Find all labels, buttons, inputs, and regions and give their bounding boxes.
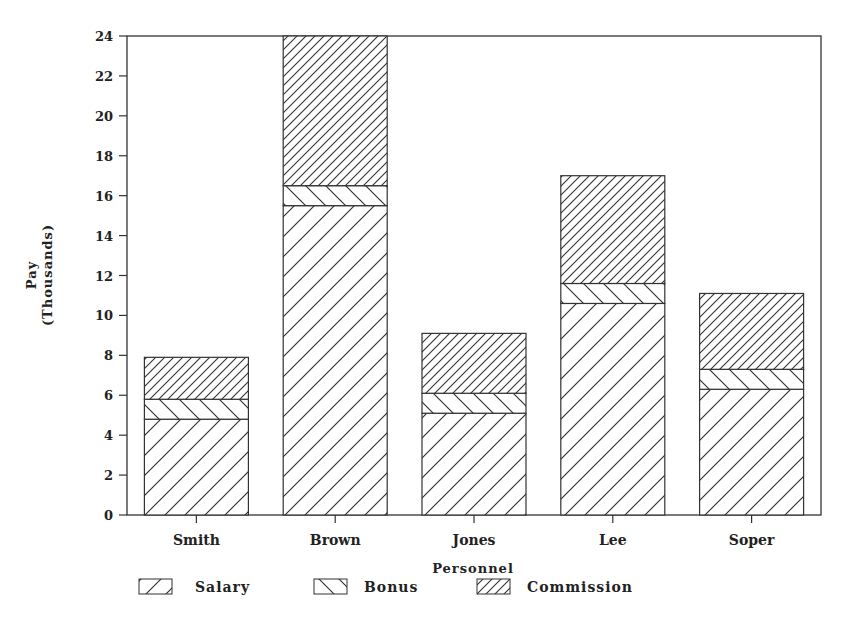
- y-axis: 024681012141618202224: [95, 29, 127, 523]
- y-tick-label: 0: [104, 508, 113, 523]
- bar-segment-commission: [283, 36, 387, 186]
- bar-segment-salary: [283, 206, 387, 515]
- y-tick-label: 16: [95, 189, 113, 204]
- y-tick-label: 20: [95, 109, 113, 124]
- bar-segment-commission: [700, 293, 804, 369]
- y-tick-label: 12: [95, 269, 113, 284]
- legend-item-bonus: Bonus: [314, 579, 418, 595]
- bar-segment-commission: [144, 357, 248, 399]
- bar-stack-smith: [144, 357, 248, 515]
- y-tick-label: 18: [95, 149, 113, 164]
- bar-segment-bonus: [422, 393, 526, 413]
- bar-segment-salary: [422, 413, 526, 515]
- bar-segment-bonus: [283, 186, 387, 206]
- y-axis-sublabel: (Thousands): [40, 224, 55, 326]
- x-category-label: Brown: [310, 532, 361, 548]
- bar-stack-lee: [561, 176, 665, 515]
- legend-label: Salary: [195, 579, 250, 595]
- legend-item-salary: Salary: [139, 579, 250, 595]
- x-axis: SmithBrownJonesLeeSoper: [173, 515, 775, 548]
- commission-swatch-icon: [477, 579, 510, 594]
- y-tick-label: 22: [95, 69, 113, 84]
- x-category-label: Soper: [729, 532, 775, 548]
- x-category-label: Jones: [451, 532, 496, 548]
- y-tick-label: 4: [104, 428, 113, 443]
- x-axis-title: Personnel: [432, 561, 514, 576]
- bar-segment-commission: [561, 176, 665, 284]
- y-tick-label: 6: [104, 388, 113, 403]
- bar-stack-brown: [283, 36, 387, 515]
- legend-item-commission: Commission: [477, 579, 633, 595]
- salary-swatch-icon: [139, 579, 172, 594]
- bar-segment-bonus: [561, 283, 665, 303]
- bar-segment-salary: [144, 419, 248, 515]
- bar-segment-salary: [561, 303, 665, 515]
- legend-label: Commission: [527, 579, 633, 595]
- y-tick-label: 2: [104, 468, 113, 483]
- y-tick-label: 14: [95, 229, 113, 244]
- bars-group: [144, 36, 803, 515]
- y-axis-title: Pay (Thousands): [24, 224, 55, 326]
- bonus-swatch-icon: [314, 579, 347, 594]
- y-tick-label: 10: [95, 308, 113, 323]
- y-axis-label: Pay: [24, 261, 39, 289]
- y-tick-label: 8: [104, 348, 113, 363]
- bar-segment-commission: [422, 333, 526, 393]
- stacked-bar-chart: 024681012141618202224 SmithBrownJonesLee…: [0, 0, 842, 620]
- x-category-label: Lee: [599, 532, 627, 548]
- y-tick-label: 24: [95, 29, 113, 44]
- bar-stack-jones: [422, 333, 526, 515]
- legend-label: Bonus: [364, 579, 418, 595]
- x-category-label: Smith: [173, 532, 220, 548]
- legend: Salary Bonus Commission: [139, 579, 633, 595]
- bar-segment-bonus: [700, 369, 804, 389]
- bar-segment-salary: [700, 389, 804, 515]
- bar-segment-bonus: [144, 399, 248, 419]
- bar-stack-soper: [700, 293, 804, 515]
